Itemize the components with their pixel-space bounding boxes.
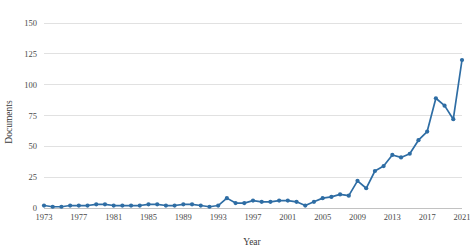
data-point-marker (199, 203, 203, 207)
data-point-marker (59, 205, 63, 209)
x-tick-label: 1989 (175, 212, 192, 222)
data-point-marker (338, 192, 342, 196)
x-tick-label: 2021 (454, 212, 470, 222)
x-tick-label: 1997 (245, 212, 262, 222)
data-point-marker (303, 203, 307, 207)
data-point-marker (329, 195, 333, 199)
series-line-documents (44, 60, 462, 207)
data-point-marker (355, 179, 359, 183)
data-point-marker (251, 199, 255, 203)
x-axis-tick-labels: 1973197719811985198919931997200120052009… (36, 212, 470, 222)
y-tick-label: 50 (29, 141, 38, 151)
x-tick-label: 1973 (36, 212, 53, 222)
y-axis-title: Documents (4, 100, 14, 144)
data-point-marker (399, 155, 403, 159)
data-point-marker (190, 202, 194, 206)
data-point-marker (425, 129, 429, 133)
data-point-marker (242, 201, 246, 205)
data-point-marker (164, 203, 168, 207)
y-axis-tick-labels: 0255075100125150 (24, 18, 37, 213)
x-tick-label: 1977 (70, 212, 87, 222)
x-tick-label: 2009 (349, 212, 366, 222)
data-point-marker (364, 186, 368, 190)
data-point-marker (382, 164, 386, 168)
data-point-marker (68, 203, 72, 207)
data-point-marker (451, 117, 455, 121)
data-point-marker (347, 194, 351, 198)
y-tick-label: 125 (24, 49, 37, 59)
data-point-marker (225, 196, 229, 200)
data-point-marker (173, 203, 177, 207)
data-point-marker (112, 203, 116, 207)
x-tick-label: 2005 (314, 212, 331, 222)
data-point-marker (216, 203, 220, 207)
data-point-marker (233, 201, 237, 205)
x-tick-label: 2013 (384, 212, 401, 222)
x-tick-label: 1985 (140, 212, 157, 222)
x-tick-label: 2001 (279, 212, 296, 222)
x-axis-title: Year (243, 237, 261, 247)
data-point-marker (442, 104, 446, 108)
x-tick-label: 1981 (105, 212, 122, 222)
data-point-marker (268, 200, 272, 204)
gridlines-group (44, 23, 462, 208)
data-point-marker (51, 205, 55, 209)
data-point-marker (77, 203, 81, 207)
data-point-marker (129, 203, 133, 207)
y-tick-label: 100 (24, 80, 37, 90)
data-point-marker (181, 202, 185, 206)
data-point-marker (408, 152, 412, 156)
data-point-marker (321, 196, 325, 200)
y-tick-label: 25 (29, 172, 38, 182)
data-point-marker (260, 200, 264, 204)
data-point-marker (138, 203, 142, 207)
y-tick-label: 75 (29, 111, 38, 121)
data-point-marker (207, 205, 211, 209)
data-point-marker (146, 202, 150, 206)
y-tick-label: 150 (24, 18, 37, 28)
x-tick-label: 2017 (419, 212, 436, 222)
data-point-marker (416, 138, 420, 142)
data-point-marker (312, 200, 316, 204)
data-point-marker (373, 169, 377, 173)
data-point-marker (434, 96, 438, 100)
line-chart-figure: 0255075100125150 19731977198119851989199… (0, 0, 470, 251)
data-point-marker (286, 199, 290, 203)
chart-canvas: 0255075100125150 19731977198119851989199… (0, 0, 470, 251)
data-point-marker (155, 202, 159, 206)
data-point-marker (390, 153, 394, 157)
data-series-group (42, 58, 464, 209)
x-tick-label: 1993 (210, 212, 227, 222)
data-point-marker (120, 203, 124, 207)
data-point-marker (294, 200, 298, 204)
data-point-marker (85, 203, 89, 207)
data-point-marker (42, 203, 46, 207)
data-point-marker (277, 199, 281, 203)
data-point-marker (460, 58, 464, 62)
data-point-marker (94, 202, 98, 206)
data-point-marker (103, 202, 107, 206)
